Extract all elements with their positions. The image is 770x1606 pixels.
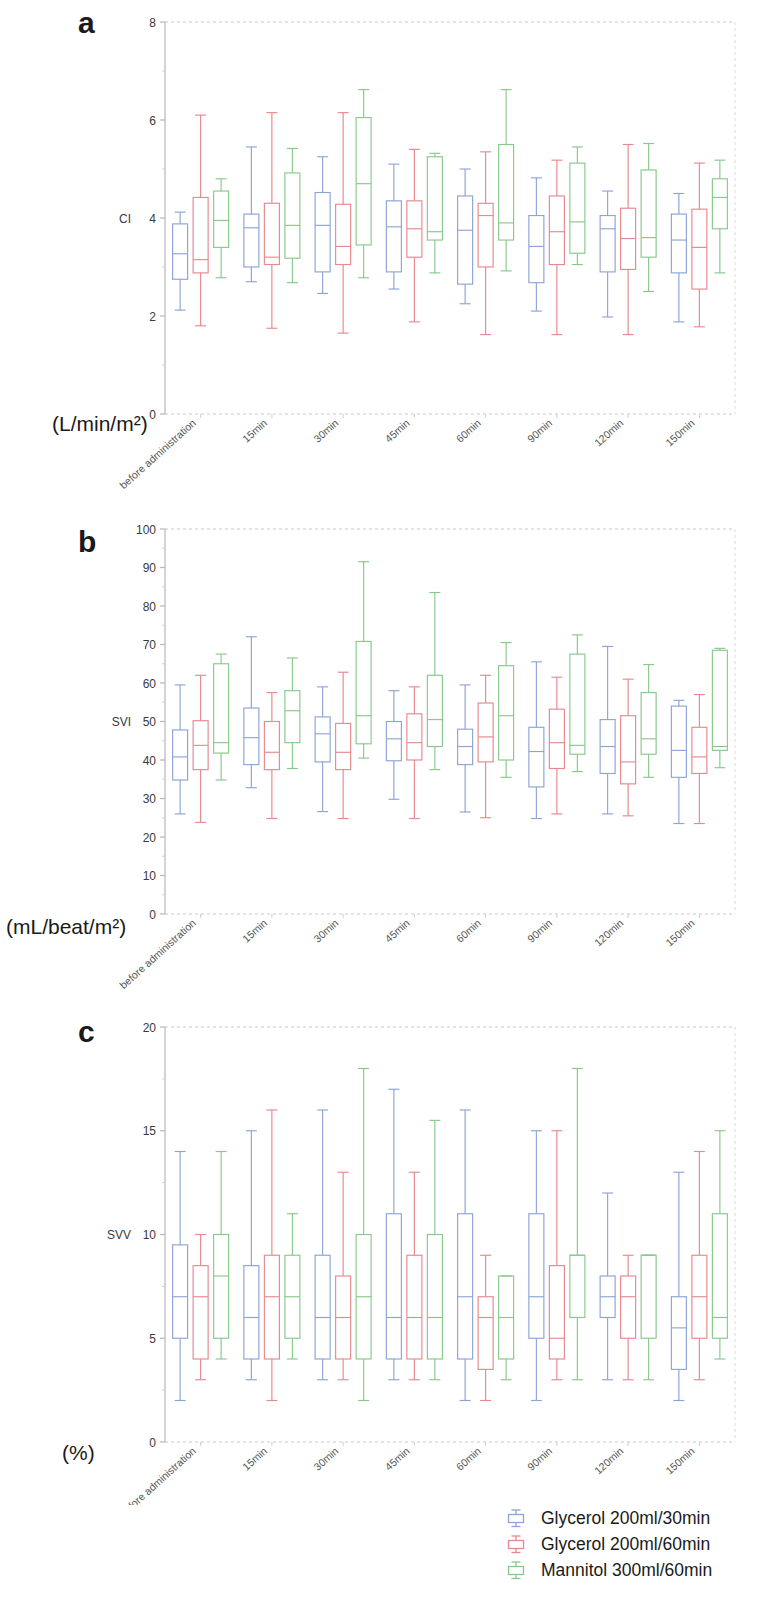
x-tick-label: 60min (454, 1444, 483, 1472)
boxplot-a-7-1 (692, 163, 707, 327)
boxplot-c-7-2 (712, 1131, 727, 1359)
y-tick-label: 6 (149, 114, 156, 128)
x-tick-label: 150min (663, 916, 697, 948)
boxplot-a-0-0 (173, 212, 188, 310)
boxplot-b-7-1 (692, 695, 707, 824)
boxplot-b-1-0 (244, 637, 259, 788)
y-axis-title: CI (119, 212, 131, 226)
y-axis-title: SVI (112, 715, 131, 729)
y-tick-label: 0 (149, 1436, 156, 1450)
boxplot-b-2-0 (315, 687, 330, 812)
x-tick-label: 15min (240, 916, 269, 944)
panel-a: a (L/min/m²) 02468CIbefore administratio… (0, 0, 770, 520)
x-tick-label: 120min (592, 916, 626, 948)
panel-a-letter: a (78, 6, 95, 40)
x-tick-label: 30min (311, 1444, 340, 1472)
x-tick-label: before administration (117, 1444, 198, 1505)
y-tick-label: 5 (149, 1332, 156, 1346)
x-tick-label: 30min (311, 416, 340, 444)
y-tick-label: 30 (143, 792, 157, 806)
boxplot-b-5-0 (529, 662, 544, 819)
x-tick-label: 90min (525, 916, 554, 944)
y-tick-label: 80 (143, 600, 157, 614)
x-tick-label: 30min (311, 916, 340, 944)
boxplot-c-5-0 (529, 1131, 544, 1401)
y-tick-label: 40 (143, 754, 157, 768)
x-tick-label: 150min (663, 416, 697, 448)
boxplot-a-5-0 (529, 178, 544, 311)
boxplot-a-2-1 (336, 113, 351, 334)
boxplot-b-6-2 (641, 665, 656, 778)
x-tick-label: 15min (240, 416, 269, 444)
boxplot-a-0-2 (214, 179, 229, 278)
boxplot-b-6-1 (621, 679, 636, 816)
boxplot-b-0-1 (193, 675, 208, 822)
boxplot-c-6-1 (621, 1255, 636, 1380)
boxplot-c-6-2 (641, 1255, 656, 1380)
legend-key-mannitol-60-icon (505, 1560, 527, 1580)
legend: Glycerol 200ml/30min Glycerol 200ml/60mi… (505, 1505, 765, 1583)
boxplot-b-3-0 (386, 691, 401, 800)
y-tick-label: 15 (143, 1124, 157, 1138)
boxplot-c-1-0 (244, 1131, 259, 1380)
panel-c-letter: c (78, 1015, 95, 1049)
boxplot-a-4-2 (499, 90, 514, 271)
boxplot-a-6-1 (621, 145, 636, 335)
y-tick-label: 0 (149, 908, 156, 922)
boxplot-b-3-2 (427, 593, 442, 770)
boxplot-a-4-1 (478, 152, 493, 335)
boxplot-b-0-0 (173, 685, 188, 814)
panel-c-unit-label: (%) (62, 1441, 95, 1465)
boxplot-b-4-1 (478, 675, 493, 817)
panel-c-plot: 05101520SVVbefore administration15min30m… (0, 1005, 770, 1505)
x-tick-label: 60min (454, 416, 483, 444)
boxplot-c-3-1 (407, 1172, 422, 1380)
x-tick-label: 150min (663, 1444, 697, 1476)
boxplot-a-1-2 (285, 148, 300, 282)
boxplot-c-2-2 (356, 1069, 371, 1401)
boxplot-b-2-1 (336, 672, 351, 818)
legend-key-glycerol-30-icon (505, 1508, 527, 1528)
y-tick-label: 10 (143, 869, 157, 883)
legend-item-glycerol-30: Glycerol 200ml/30min (505, 1505, 765, 1531)
panel-a-plot: 02468CIbefore administration15min30min45… (0, 0, 770, 520)
boxplot-a-1-0 (244, 147, 259, 282)
boxplot-c-7-1 (692, 1152, 707, 1380)
x-tick-label: 45min (382, 416, 411, 444)
boxplot-b-1-1 (264, 693, 279, 819)
legend-label-glycerol-60: Glycerol 200ml/60min (541, 1534, 710, 1555)
boxplot-c-2-0 (315, 1110, 330, 1380)
boxplot-c-6-0 (600, 1193, 615, 1380)
panel-a-unit-label: (L/min/m²) (52, 412, 148, 436)
y-tick-label: 0 (149, 408, 156, 422)
boxplot-a-6-2 (641, 144, 656, 292)
boxplot-a-3-0 (386, 164, 401, 289)
boxplot-c-1-2 (285, 1214, 300, 1359)
boxplot-c-2-1 (336, 1172, 351, 1380)
x-tick-label: 45min (382, 916, 411, 944)
legend-key-glycerol-60-icon (505, 1534, 527, 1554)
boxplot-a-7-0 (671, 194, 686, 322)
boxplot-b-5-1 (549, 677, 564, 814)
y-tick-label: 50 (143, 715, 157, 729)
boxplot-b-2-2 (356, 562, 371, 758)
boxplot-a-3-2 (427, 153, 442, 273)
y-tick-label: 4 (149, 212, 156, 226)
boxplot-c-0-2 (214, 1152, 229, 1360)
panel-b: b (mL/beat/m²) 0102030405060708090100SVI… (0, 515, 770, 1010)
panel-b-unit-label: (mL/beat/m²) (6, 915, 126, 939)
panel-b-letter: b (78, 525, 96, 559)
boxplot-a-2-0 (315, 157, 330, 294)
boxplot-a-6-0 (600, 191, 615, 317)
boxplot-a-3-1 (407, 149, 422, 321)
boxplot-b-7-0 (671, 700, 686, 823)
boxplot-c-3-2 (427, 1120, 442, 1379)
boxplot-b-5-2 (570, 635, 585, 772)
boxplot-c-0-0 (173, 1152, 188, 1401)
boxplot-b-0-2 (214, 654, 229, 780)
boxplot-b-4-0 (458, 685, 473, 812)
panel-c: c (%) 05101520SVVbefore administration15… (0, 1005, 770, 1505)
y-axis-title: SVV (107, 1228, 131, 1242)
boxplot-a-2-2 (356, 90, 371, 278)
boxplot-a-1-1 (264, 113, 279, 329)
